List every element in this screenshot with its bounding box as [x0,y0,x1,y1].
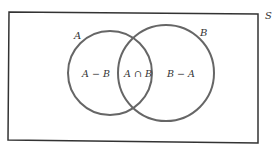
universe-label: S [265,10,272,21]
region-a-minus-b: A − B [81,68,110,79]
venn-diagram: S A B A − B A ∩ B B − A [0,0,280,147]
set-a-label: A [73,30,81,41]
region-b-minus-a: B − A [166,68,195,79]
set-b-label: B [199,27,207,38]
region-a-intersect-b: A ∩ B [123,68,152,79]
